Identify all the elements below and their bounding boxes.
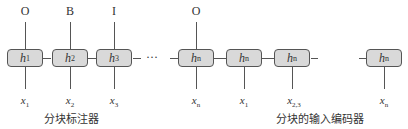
recurrent-link — [88, 58, 96, 59]
input-connector — [25, 67, 26, 89]
recurrent-link — [262, 58, 274, 59]
encoder-state-box: hn — [274, 49, 310, 67]
hidden-state-box: h1 — [7, 49, 43, 67]
chunk-encoder-caption: 分块的输入编码器 — [276, 110, 364, 126]
input-label: xn — [369, 94, 399, 109]
hidden-state-box: hn — [178, 49, 214, 67]
ellipsis: ··· — [146, 50, 158, 65]
input-connector — [244, 67, 245, 89]
hidden-state-box: h2 — [52, 49, 88, 67]
input-label: xn — [181, 94, 211, 109]
recurrent-link — [43, 58, 51, 59]
recurrent-link — [359, 58, 366, 59]
input-label: x3 — [99, 94, 129, 109]
tag-label-1: O — [15, 4, 35, 19]
input-connector — [70, 67, 71, 89]
tag-label-2: B — [60, 4, 80, 19]
recurrent-link — [311, 58, 318, 59]
input-connector — [384, 67, 385, 89]
encoder-state-box: hn — [366, 49, 402, 67]
output-connector — [25, 22, 26, 49]
tag-label-3: I — [104, 4, 124, 19]
output-connector — [196, 22, 197, 49]
chunk-tagger-caption: 分块标注器 — [44, 110, 99, 126]
input-label: x2,3 — [279, 94, 309, 109]
recurrent-link — [214, 58, 226, 59]
encoder-state-box: hn — [226, 49, 262, 67]
recurrent-link — [170, 58, 178, 59]
input-label: x2 — [55, 94, 85, 109]
hidden-state-box: h3 — [96, 49, 132, 67]
tag-label-n: O — [186, 4, 206, 19]
input-connector — [196, 67, 197, 89]
input-connector — [292, 67, 293, 89]
input-label: x1 — [10, 94, 40, 109]
recurrent-link — [133, 58, 141, 59]
input-label: x1 — [229, 94, 259, 109]
output-connector — [114, 22, 115, 49]
output-connector — [70, 22, 71, 49]
input-connector — [114, 67, 115, 89]
